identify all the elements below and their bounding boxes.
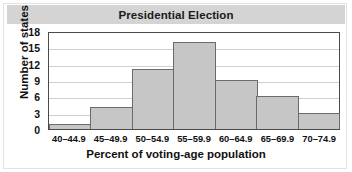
bar <box>215 80 258 129</box>
bar-series <box>49 33 339 129</box>
y-axis-tick-label: 6 <box>34 92 40 102</box>
x-axis-tick-label: 70–74.9 <box>298 132 340 146</box>
histogram-figure: Presidential Election Number of states 0… <box>0 0 352 172</box>
x-axis-tick-label: 50–54.9 <box>131 132 173 146</box>
y-axis-tick-label: 9 <box>34 76 40 86</box>
x-axis-tick-label: 60–64.9 <box>215 132 257 146</box>
bar <box>49 124 92 129</box>
x-axis-tick-label: 40–44.9 <box>48 132 90 146</box>
x-axis-tick-labels: 40–44.945–49.950–54.955–59.960–64.965–69… <box>48 132 340 146</box>
bar <box>173 42 216 129</box>
y-axis-tick-label: 18 <box>28 27 40 37</box>
y-axis-tick-label: 12 <box>28 60 40 70</box>
x-axis-title: Percent of voting-age population <box>0 148 352 160</box>
bar <box>132 69 175 129</box>
chart-title-band: Presidential Election <box>7 5 345 24</box>
y-axis-tick-labels: 0369121518 <box>12 32 44 130</box>
x-axis-tick-label: 65–69.9 <box>257 132 299 146</box>
bar <box>298 113 341 129</box>
x-axis-tick-label: 45–49.9 <box>90 132 132 146</box>
bar <box>90 107 133 129</box>
y-axis-tick-label: 0 <box>34 125 40 135</box>
page-title: Presidential Election <box>118 9 233 21</box>
y-axis-tick-label: 15 <box>28 43 40 53</box>
x-axis-tick-label: 55–59.9 <box>173 132 215 146</box>
bar <box>256 96 299 129</box>
y-axis-tick-label: 3 <box>34 109 40 119</box>
plot-area <box>48 32 340 130</box>
